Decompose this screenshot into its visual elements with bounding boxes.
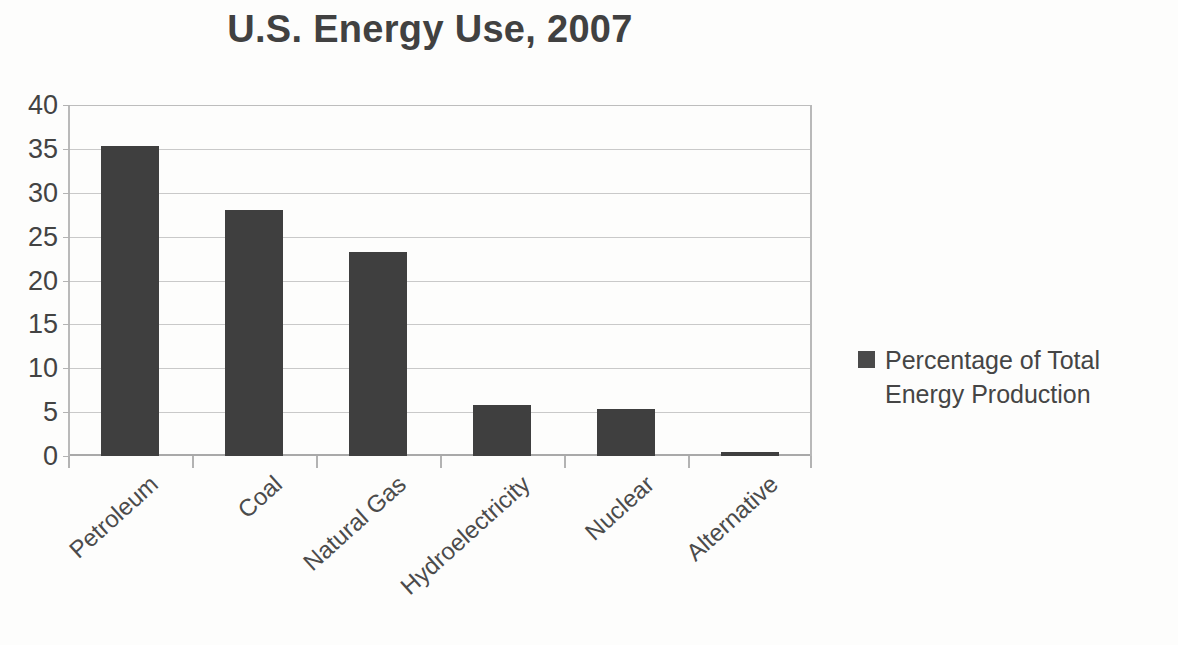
legend-swatch-icon bbox=[858, 351, 875, 368]
bar-petroleum[interactable] bbox=[101, 146, 159, 456]
chart-legend: Percentage of Total Energy Production bbox=[858, 344, 1158, 412]
x-axis-label-nuclear: Nuclear bbox=[579, 470, 659, 546]
bar-nuclear[interactable] bbox=[597, 409, 655, 456]
y-axis-label-5: 5 bbox=[6, 399, 58, 426]
bar-slot bbox=[688, 105, 812, 456]
x-axis-label-text: Natural Gas bbox=[298, 470, 412, 576]
x-axis-tick-0 bbox=[68, 456, 70, 468]
x-axis-ticks bbox=[68, 456, 812, 468]
x-axis-labels: PetroleumCoalNatural GasHydroelectricity… bbox=[68, 470, 812, 620]
bar-slot bbox=[440, 105, 564, 456]
x-axis-label-alternative: Alternative bbox=[681, 470, 784, 567]
y-axis-label-35: 35 bbox=[6, 135, 58, 162]
y-axis-label-15: 15 bbox=[6, 311, 58, 338]
bar-natural-gas[interactable] bbox=[349, 252, 407, 456]
y-axis: 0510152025303540 bbox=[0, 105, 58, 456]
bar-hydroelectricity[interactable] bbox=[473, 405, 531, 456]
x-axis-label-text: Hydroelectricity bbox=[395, 470, 536, 601]
bar-slot bbox=[316, 105, 440, 456]
bar-slot bbox=[564, 105, 688, 456]
y-axis-label-10: 10 bbox=[6, 355, 58, 382]
x-axis-tick-6 bbox=[810, 456, 812, 468]
x-axis-label-hydroelectricity: Hydroelectricity bbox=[395, 470, 536, 601]
x-axis-label-coal: Coal bbox=[232, 470, 287, 524]
y-axis-label-20: 20 bbox=[6, 267, 58, 294]
bar-slot bbox=[192, 105, 316, 456]
x-axis-label-natural-gas: Natural Gas bbox=[298, 470, 412, 576]
y-axis-label-25: 25 bbox=[6, 223, 58, 250]
y-axis-label-30: 30 bbox=[6, 179, 58, 206]
bar-coal[interactable] bbox=[225, 210, 283, 456]
legend-entry-label: Percentage of Total Energy Production bbox=[885, 344, 1137, 412]
x-axis-tick-2 bbox=[316, 456, 318, 468]
x-axis-tick-5 bbox=[688, 456, 690, 468]
bar-slot bbox=[68, 105, 192, 456]
x-axis-tick-4 bbox=[564, 456, 566, 468]
x-axis-label-text: Nuclear bbox=[579, 470, 659, 546]
x-axis-tick-3 bbox=[440, 456, 442, 468]
x-axis-label-text: Alternative bbox=[681, 470, 784, 567]
bars-layer bbox=[68, 105, 812, 456]
x-axis-tick-1 bbox=[192, 456, 194, 468]
x-axis-label-text: Coal bbox=[232, 470, 287, 524]
chart-title: U.S. Energy Use, 2007 bbox=[0, 8, 860, 51]
y-axis-label-0: 0 bbox=[6, 443, 58, 470]
x-axis-label-petroleum: Petroleum bbox=[64, 470, 164, 564]
x-axis-label-text: Petroleum bbox=[64, 470, 164, 564]
y-axis-label-40: 40 bbox=[6, 92, 58, 119]
